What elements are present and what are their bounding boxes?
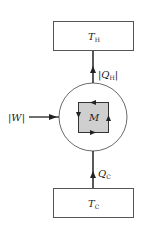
heat-in-label: QC (98, 168, 111, 180)
work-label: |W| (8, 112, 25, 124)
machine-cycle: M (76, 100, 111, 135)
machine-label: M (88, 112, 100, 123)
heat-out-arrow-icon (90, 66, 96, 73)
work-arrow-icon (49, 114, 57, 120)
heat-pump-diagram: TH TC |QH| QC |W| M (0, 0, 146, 228)
cold-reservoir-box: TC (54, 189, 134, 218)
heat-in-arrow-icon (90, 171, 96, 178)
hot-reservoir-box: TH (54, 22, 134, 51)
heat-out-label: |QH| (98, 69, 118, 81)
